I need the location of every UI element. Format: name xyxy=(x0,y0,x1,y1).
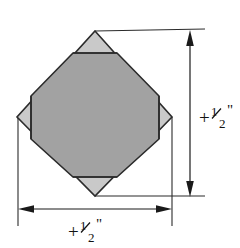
drawing-canvas: + 1 2 " + 1 2 " xyxy=(0,0,240,248)
vertical-dimension-plus: + xyxy=(199,107,210,128)
technical-drawing-figure: + 1 2 " + 1 2 " xyxy=(0,0,240,248)
horizontal-dimension-unit: " xyxy=(96,216,102,232)
vertical-dimension-unit: " xyxy=(227,102,233,118)
horizontal-dimension-plus: + xyxy=(68,221,79,242)
horizontal-dimension-denominator: 2 xyxy=(88,230,95,245)
vertical-dimension-denominator: 2 xyxy=(219,116,226,131)
